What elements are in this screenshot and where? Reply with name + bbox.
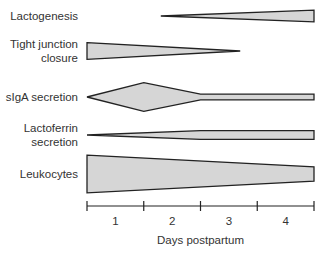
row-label: closure xyxy=(41,52,78,64)
row-lactoferrin-secretion: Lactoferrinsecretion xyxy=(24,122,314,148)
profile-shape xyxy=(87,83,314,112)
row-label: Lactoferrin xyxy=(24,122,78,134)
profile-shape xyxy=(161,10,314,22)
row-lactogenesis: Lactogenesis xyxy=(10,10,314,22)
profile-shape xyxy=(87,155,314,193)
row-leukocytes: Leukocytes xyxy=(20,155,314,193)
row-label: Lactogenesis xyxy=(10,10,78,22)
tick-label: 3 xyxy=(226,215,232,227)
tick-label: 1 xyxy=(112,215,118,227)
x-axis: 1234Days postpartum xyxy=(87,201,314,246)
row-label: secretion xyxy=(31,136,78,148)
row-siga-secretion: sIgA secretion xyxy=(6,83,314,112)
tick-label: 4 xyxy=(282,215,289,227)
row-label: Tight junction xyxy=(10,38,78,50)
tick-label: 2 xyxy=(169,215,175,227)
profile-shape xyxy=(87,43,240,60)
row-tight-junction-closure: Tight junctionclosure xyxy=(10,38,240,64)
profile-shape xyxy=(87,131,314,140)
x-axis-label: Days postpartum xyxy=(157,234,244,246)
row-label: sIgA secretion xyxy=(6,91,78,103)
postpartum-timeline-diagram: LactogenesisTight junctionclosuresIgA se… xyxy=(0,0,323,253)
row-label: Leukocytes xyxy=(20,168,78,180)
